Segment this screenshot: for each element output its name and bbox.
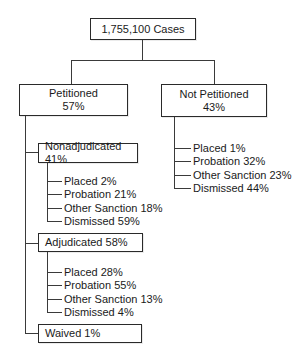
- tick-notpet-placed: [174, 148, 191, 149]
- tick-notpet-dismissed: [174, 188, 191, 189]
- connector-root-down: [142, 40, 143, 60]
- notpet-item-probation: Probation 32%: [193, 155, 265, 168]
- nonadjudicated-label: Nonadjudicated 41%: [45, 140, 137, 166]
- petitioned-percent: 57%: [62, 100, 84, 113]
- tick-adj-other-sanction: [47, 299, 62, 300]
- tick-notpet-other-sanction: [174, 175, 191, 176]
- connector-to-adjudicated: [25, 243, 38, 244]
- nonadj-item-probation: Probation 21%: [64, 188, 136, 201]
- connector-nonadjudicated-trunk: [47, 163, 48, 222]
- adj-item-dismissed: Dismissed 4%: [64, 306, 134, 319]
- nonadj-item-placed: Placed 2%: [64, 175, 117, 188]
- adj-item-probation: Probation 55%: [64, 279, 136, 292]
- tick-nonadj-dismissed: [47, 221, 62, 222]
- nonadjudicated-box: Nonadjudicated 41%: [38, 143, 138, 163]
- connector-to-nonadjudicated: [25, 152, 38, 153]
- root-cases-box: 1,755,100 Cases: [90, 18, 196, 40]
- connector-root-horizontal: [71, 60, 215, 61]
- notpet-item-dismissed: Dismissed 44%: [193, 182, 269, 195]
- notpet-item-other-sanction: Other Sanction 23%: [193, 169, 291, 182]
- adj-item-placed: Placed 28%: [64, 266, 123, 279]
- petitioned-box: Petitioned 57%: [19, 84, 128, 116]
- tick-nonadj-placed: [47, 181, 62, 182]
- waived-box: Waived 1%: [38, 324, 142, 343]
- root-cases-label: 1,755,100 Cases: [101, 23, 184, 36]
- tick-adj-dismissed: [47, 312, 62, 313]
- connector-petitioned-trunk: [25, 116, 26, 334]
- not-petitioned-label: Not Petitioned: [179, 88, 248, 101]
- not-petitioned-box: Not Petitioned 43%: [161, 84, 267, 117]
- connector-to-not-petitioned: [214, 60, 215, 84]
- connector-adjudicated-trunk: [47, 252, 48, 313]
- tick-adj-placed: [47, 272, 62, 273]
- tick-nonadj-probation: [47, 194, 62, 195]
- tick-adj-probation: [47, 285, 62, 286]
- connector-to-petitioned: [71, 60, 72, 84]
- nonadj-item-other-sanction: Other Sanction 18%: [64, 202, 162, 215]
- nonadj-item-dismissed: Dismissed 59%: [64, 215, 140, 228]
- not-petitioned-percent: 43%: [203, 101, 225, 114]
- adj-item-other-sanction: Other Sanction 13%: [64, 293, 162, 306]
- petitioned-label: Petitioned: [49, 87, 98, 100]
- waived-label: Waived 1%: [45, 327, 100, 340]
- notpet-item-placed: Placed 1%: [193, 142, 246, 155]
- tick-notpet-probation: [174, 161, 191, 162]
- connector-not-petitioned-trunk: [174, 117, 175, 188]
- adjudicated-box: Adjudicated 58%: [38, 233, 143, 252]
- adjudicated-label: Adjudicated 58%: [45, 236, 128, 249]
- tick-nonadj-other-sanction: [47, 208, 62, 209]
- connector-to-waived: [25, 333, 38, 334]
